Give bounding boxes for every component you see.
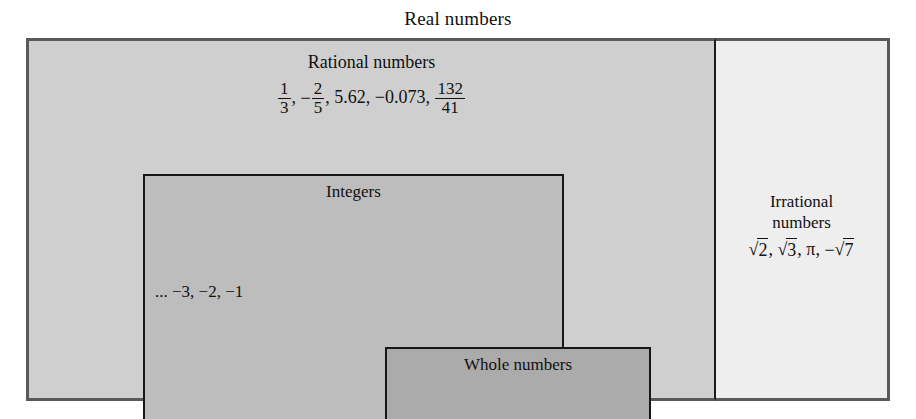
fraction-one-third: 1 3 (278, 80, 291, 117)
set-box-whole-numbers: Whole numbers 0 Natural numbers 1, 2, 3 … (385, 347, 651, 419)
radical-sqrt-2: √2 (749, 237, 769, 260)
integers-negative-values: ... −3, −2, −1 (155, 282, 243, 302)
radicand: 2 (757, 238, 768, 261)
fraction-numerator: 132 (435, 80, 465, 99)
fraction-denominator: 3 (278, 99, 291, 117)
set-box-irrational-numbers: Irrational numbers √2 , √3 , π, − √7 (716, 38, 890, 401)
list-separator: , (425, 87, 434, 107)
fraction-numerator: 2 (312, 80, 325, 99)
decimal-value-5-62: 5.62 (334, 87, 366, 107)
irrational-examples-list: √2 , √3 , π, − √7 (716, 237, 887, 262)
list-separator: , (815, 239, 824, 259)
radicand: 7 (843, 238, 854, 261)
set-label-whole-numbers: Whole numbers (387, 354, 649, 375)
fraction-denominator: 5 (312, 99, 325, 117)
decimal-value-negative-0-073: −0.073 (375, 87, 426, 107)
fraction-numerator: 1 (278, 80, 291, 99)
number-sets-venn-diagram: Real numbers Rational numbers 1 3 , − 2 … (0, 0, 916, 419)
set-label-irrational-line1: Irrational (716, 191, 887, 212)
set-label-integers: Integers (145, 181, 562, 202)
fraction-denominator: 41 (435, 99, 465, 117)
set-box-integers: Integers ... −3, −2, −1 Whole numbers 0 … (143, 174, 564, 419)
set-label-rational-numbers: Rational numbers (29, 51, 714, 73)
fraction-132-over-41: 132 41 (435, 80, 465, 117)
radicand: 3 (786, 238, 797, 261)
list-separator: , (797, 239, 806, 259)
fraction-two-fifths: 2 5 (312, 80, 325, 117)
rational-examples-list: 1 3 , − 2 5 , 5.62, −0.073, 132 41 (29, 81, 714, 118)
list-separator: , (292, 87, 301, 107)
set-label-irrational-numbers: Irrational numbers (716, 191, 887, 233)
list-separator: , (768, 239, 777, 259)
set-box-rational-numbers: Rational numbers 1 3 , − 2 5 , 5.62, −0.… (26, 38, 716, 401)
negative-sign: − (824, 239, 834, 261)
list-separator: , (325, 87, 334, 107)
diagram-title-real-numbers: Real numbers (0, 7, 916, 31)
set-label-irrational-line2: numbers (716, 212, 887, 233)
list-separator: , (366, 87, 375, 107)
radical-sqrt-3: √3 (777, 237, 797, 260)
radical-sqrt-7: √7 (835, 237, 855, 260)
negative-sign: − (301, 88, 311, 108)
